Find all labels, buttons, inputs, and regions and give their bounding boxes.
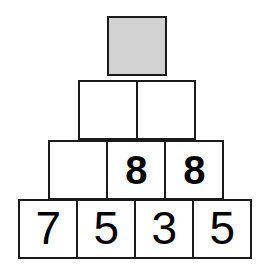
number-pyramid-figure: 887535 (0, 0, 277, 274)
pyramid-cell-r4-c4[interactable]: 5 (192, 199, 252, 259)
pyramid-cell-r4-c3-value: 3 (151, 205, 176, 251)
pyramid-cell-r3-c2[interactable]: 8 (106, 140, 166, 200)
pyramid-cell-r4-c3[interactable]: 3 (134, 199, 194, 259)
pyramid-cell-r4-c1-value: 7 (35, 205, 60, 251)
pyramid-cell-r3-c1[interactable] (48, 140, 108, 200)
pyramid-cell-r3-c2-value: 8 (125, 150, 147, 190)
pyramid-cell-r4-c1[interactable]: 7 (18, 199, 78, 259)
pyramid-cell-r1-c1[interactable] (107, 16, 167, 76)
pyramid-cell-r2-c2[interactable] (136, 80, 196, 140)
pyramid-cell-r4-c2[interactable]: 5 (76, 199, 136, 259)
pyramid-row-r2 (78, 80, 196, 140)
pyramid-cell-r3-c3[interactable]: 8 (164, 140, 224, 200)
pyramid-cell-r3-c3-value: 8 (183, 150, 205, 190)
pyramid-cell-r4-c2-value: 5 (93, 205, 118, 251)
pyramid-row-r3: 88 (48, 140, 224, 200)
pyramid-row-r4: 7535 (18, 199, 252, 259)
pyramid-cell-r4-c4-value: 5 (209, 205, 234, 251)
pyramid-row-r1 (107, 16, 167, 76)
pyramid-cell-r2-c1[interactable] (78, 80, 138, 140)
